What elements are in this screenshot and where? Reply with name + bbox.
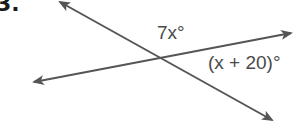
angle-label-x-plus-20: (x + 20)° [208, 52, 281, 74]
angle-label-7x: 7x° [157, 22, 185, 44]
angle-label-x-plus-20-text: (x + 20)° [208, 52, 281, 73]
angle-label-7x-text: 7x° [157, 22, 185, 43]
